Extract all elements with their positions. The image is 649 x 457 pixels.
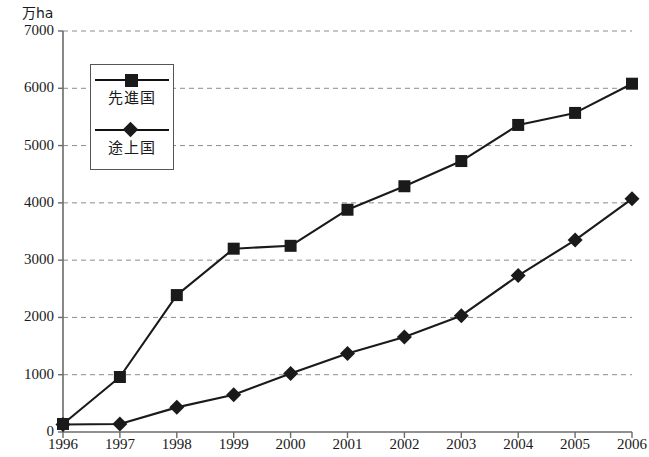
data-point-marker [342, 204, 354, 216]
chart-legend: 先進国途上国 [90, 64, 174, 170]
series-line-1 [63, 199, 632, 425]
data-point-marker [626, 78, 638, 90]
data-point-marker [398, 180, 410, 192]
data-point-marker [226, 387, 241, 402]
data-point-marker [568, 233, 583, 248]
x-axis-tick-label: 1998 [147, 436, 207, 452]
x-axis-tick-label: 2002 [374, 436, 434, 452]
x-axis-tick-label: 1999 [204, 436, 264, 452]
data-point-marker [171, 289, 183, 301]
data-point-marker [285, 240, 297, 252]
data-point-marker [228, 243, 240, 255]
x-axis-tick-label: 2003 [431, 436, 491, 452]
x-axis-tick-label: 2004 [488, 436, 548, 452]
data-point-marker [625, 191, 640, 206]
legend-marker-square-icon [95, 73, 169, 87]
data-point-marker [569, 107, 581, 119]
legend-item-developing[interactable]: 途上国 [91, 123, 173, 157]
line-chart: 万ha 01000200030004000500060007000 先進国途上国… [0, 0, 649, 457]
data-point-marker [455, 155, 467, 167]
legend-label: 途上国 [91, 139, 173, 157]
x-axis-tick-label: 2001 [318, 436, 378, 452]
data-point-marker [340, 346, 355, 361]
data-point-marker [112, 416, 127, 431]
x-axis-tick-label: 1996 [33, 436, 93, 452]
legend-label: 先進国 [91, 89, 173, 107]
data-point-marker [114, 371, 126, 383]
data-point-marker [283, 366, 298, 381]
x-axis-tick-label: 2006 [602, 436, 649, 452]
data-point-marker [511, 268, 526, 283]
x-axis-tick-label: 1997 [90, 436, 150, 452]
data-point-marker [454, 308, 469, 323]
data-point-marker [512, 119, 524, 131]
x-axis-tick-label: 2005 [545, 436, 605, 452]
legend-marker-diamond-icon [95, 123, 169, 137]
x-axis-tick-label: 2000 [261, 436, 321, 452]
data-point-marker [169, 400, 184, 415]
data-point-marker [397, 329, 412, 344]
legend-item-developed[interactable]: 先進国 [91, 73, 173, 107]
